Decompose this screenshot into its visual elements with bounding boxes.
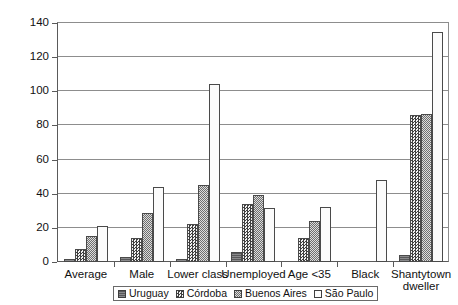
bar (97, 226, 108, 262)
bar (176, 259, 187, 262)
legend-label: São Paulo (325, 288, 373, 299)
bar (421, 114, 432, 262)
y-axis-tick-label: 80 (13, 119, 49, 130)
legend-swatch-icon (176, 290, 184, 298)
bar (399, 255, 410, 262)
y-axis-tick-label: 140 (13, 17, 49, 28)
bar (376, 180, 387, 262)
bar-group (114, 23, 170, 262)
x-axis-tick-mark (170, 262, 171, 267)
bar (309, 221, 320, 262)
bar-group (393, 23, 449, 262)
bar (242, 204, 253, 262)
bar (153, 187, 164, 262)
bar (86, 236, 97, 262)
bar (64, 259, 75, 262)
y-axis-tick-mark (52, 262, 57, 263)
legend-label: Córdoba (187, 288, 227, 299)
bar-group (170, 23, 226, 262)
bar (131, 238, 142, 262)
legend-swatch-icon (234, 290, 242, 298)
legend-item: Córdoba (176, 288, 227, 299)
bar (198, 185, 209, 262)
legend-label: Buenos Aires (245, 288, 307, 299)
y-axis-tick-label: 40 (13, 188, 49, 199)
y-axis-tick-label: 100 (13, 85, 49, 96)
x-axis-tick-mark (114, 262, 115, 267)
y-axis-tick-label: 120 (13, 51, 49, 62)
x-axis-tick-mark (281, 262, 282, 267)
bar (187, 224, 198, 262)
bar (75, 249, 86, 262)
bar (410, 115, 421, 262)
bar (253, 195, 264, 262)
legend-swatch-icon (314, 290, 322, 298)
y-axis-tick-label: 20 (13, 222, 49, 233)
bar-group (226, 23, 282, 262)
y-axis-tick-label: 0 (13, 256, 49, 267)
bar (209, 84, 220, 262)
x-axis-tick-mark (337, 262, 338, 267)
x-axis-tick-mark (226, 262, 227, 267)
bar-groups (58, 23, 449, 262)
bar (264, 208, 275, 262)
legend-item: São Paulo (314, 288, 373, 299)
legend-item: Buenos Aires (234, 288, 307, 299)
bar (142, 213, 153, 263)
legend-swatch-icon (118, 290, 126, 298)
y-axis-tick-label: 60 (13, 154, 49, 165)
x-axis-tick-label: Shantytown dweller (387, 268, 455, 292)
bar-chart: 020406080100120140 AverageMaleLower clas… (0, 0, 458, 305)
bar (298, 238, 309, 262)
bar (320, 207, 331, 262)
legend-item: Uruguay (118, 288, 169, 299)
bar-group (281, 23, 337, 262)
bar (432, 32, 443, 262)
chart-legend: UruguayCórdobaBuenos AiresSão Paulo (113, 286, 378, 301)
legend-label: Uruguay (129, 288, 169, 299)
bar-group (58, 23, 114, 262)
x-axis-tick-mark (393, 262, 394, 267)
bar (120, 257, 131, 262)
bar (231, 252, 242, 262)
bar-group (337, 23, 393, 262)
